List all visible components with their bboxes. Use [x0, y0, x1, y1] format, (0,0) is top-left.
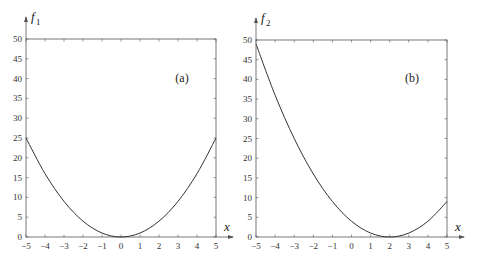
y-tick-label: 15 [13, 173, 23, 183]
x-axis-label: x [223, 219, 230, 234]
y-tick-label: 5 [18, 212, 23, 222]
x-tick-label: −1 [328, 241, 338, 251]
y-tick-label: 0 [18, 232, 23, 242]
y-axis-arrow-icon [254, 17, 258, 23]
y-tick-label: 20 [13, 153, 23, 163]
y-axis-label-subscript: 1 [36, 17, 41, 27]
panel-a: −5−4−3−2−101234505101520253035404550f1x(… [13, 9, 234, 251]
x-axis-arrow-icon [459, 235, 465, 239]
x-tick-label: 0 [349, 241, 354, 251]
y-tick-label: 35 [13, 93, 23, 103]
y-tick-label: 35 [243, 94, 253, 104]
curve-f1 [26, 138, 216, 237]
y-tick-label: 10 [243, 193, 253, 203]
y-tick-label: 20 [243, 153, 253, 163]
x-tick-label: 2 [157, 241, 162, 251]
y-tick-label: 25 [243, 134, 253, 144]
y-axis-label-subscript: 2 [266, 18, 271, 28]
x-tick-label: 1 [138, 241, 143, 251]
x-tick-label: 3 [407, 241, 412, 251]
y-tick-label: 45 [13, 54, 23, 64]
x-tick-label: −5 [21, 241, 31, 251]
y-tick-label: 5 [248, 212, 253, 222]
y-tick-label: 30 [13, 113, 23, 123]
y-tick-label: 10 [13, 192, 23, 202]
y-tick-label: 50 [13, 34, 23, 44]
plot-frame [256, 40, 447, 237]
y-tick-label: 25 [13, 133, 23, 143]
x-tick-label: −5 [251, 241, 261, 251]
x-tick-label: 0 [119, 241, 124, 251]
y-tick-label: 30 [243, 114, 253, 124]
plot-frame [26, 39, 216, 237]
x-tick-label: −3 [289, 241, 299, 251]
panel-label: (a) [175, 71, 188, 85]
x-tick-label: −1 [97, 241, 107, 251]
x-tick-label: −2 [309, 241, 319, 251]
x-tick-label: 5 [214, 241, 219, 251]
x-tick-label: 2 [387, 241, 392, 251]
x-axis-arrow-icon [228, 235, 234, 239]
panel-label: (b) [405, 71, 419, 85]
x-tick-label: 4 [426, 241, 431, 251]
x-tick-label: 1 [368, 241, 373, 251]
y-tick-label: 45 [243, 55, 253, 65]
y-tick-label: 0 [248, 232, 253, 242]
y-tick-label: 40 [243, 74, 253, 84]
figure: −5−4−3−2−101234505101520253035404550f1x(… [0, 0, 479, 265]
y-axis-arrow-icon [24, 16, 28, 22]
x-tick-label: 4 [195, 241, 200, 251]
panel-b: −5−4−3−2−101234505101520253035404550f2x(… [243, 10, 465, 251]
y-tick-label: 15 [243, 173, 253, 183]
y-tick-label: 50 [243, 35, 253, 45]
x-tick-label: 3 [176, 241, 181, 251]
x-tick-label: −2 [78, 241, 88, 251]
x-axis-label: x [454, 219, 461, 234]
chart-canvas: −5−4−3−2−101234505101520253035404550f1x(… [0, 0, 479, 265]
x-tick-label: −3 [59, 241, 69, 251]
x-tick-label: −4 [40, 241, 50, 251]
y-tick-label: 40 [13, 74, 23, 84]
x-tick-label: −4 [270, 241, 280, 251]
x-tick-label: 5 [445, 241, 450, 251]
